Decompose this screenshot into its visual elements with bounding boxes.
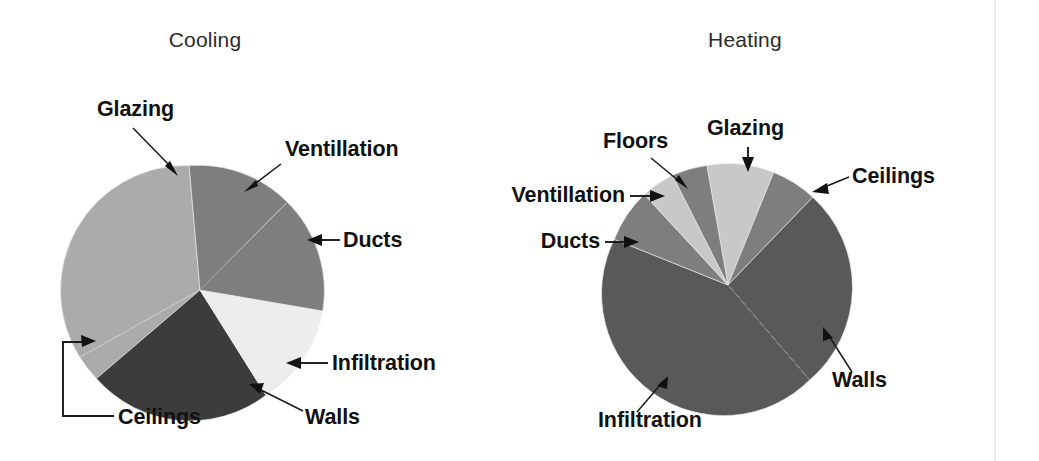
pie-charts-svg: Cooling Glazi	[0, 0, 1039, 461]
cooling-leader-glazing	[133, 128, 172, 168]
cooling-label-glazing: Glazing	[97, 97, 174, 121]
heating-label-infiltration: Infiltration	[598, 408, 702, 432]
heating-label-glazing: Glazing	[707, 116, 784, 140]
cooling-leader-walls	[259, 389, 303, 411]
cooling-label-walls: Walls	[305, 405, 360, 429]
chart-heating: Heating Floo	[512, 28, 935, 432]
cooling-label-ventillation: Ventillation	[285, 137, 398, 161]
cooling-pie	[60, 165, 324, 421]
heating-label-ceilings: Ceilings	[852, 164, 935, 188]
figure-canvas: Cooling Glazi	[0, 0, 1039, 461]
chart-cooling: Cooling Glazi	[60, 28, 435, 429]
heating-chart-title: Heating	[708, 28, 782, 51]
heating-label-ducts: Ducts	[541, 229, 600, 253]
cooling-chart-title: Cooling	[169, 28, 242, 51]
cooling-label-ceilings: Ceilings	[118, 405, 201, 429]
heating-label-ventillation: Ventillation	[512, 183, 625, 207]
heating-arrow-ceilings	[812, 183, 829, 194]
heating-leader-floors	[651, 158, 680, 182]
cooling-label-ducts: Ducts	[343, 228, 402, 252]
heating-label-floors: Floors	[603, 129, 668, 153]
cooling-label-infiltration: Infiltration	[332, 351, 436, 375]
heating-pie	[602, 164, 853, 416]
heating-label-walls: Walls	[832, 368, 887, 392]
